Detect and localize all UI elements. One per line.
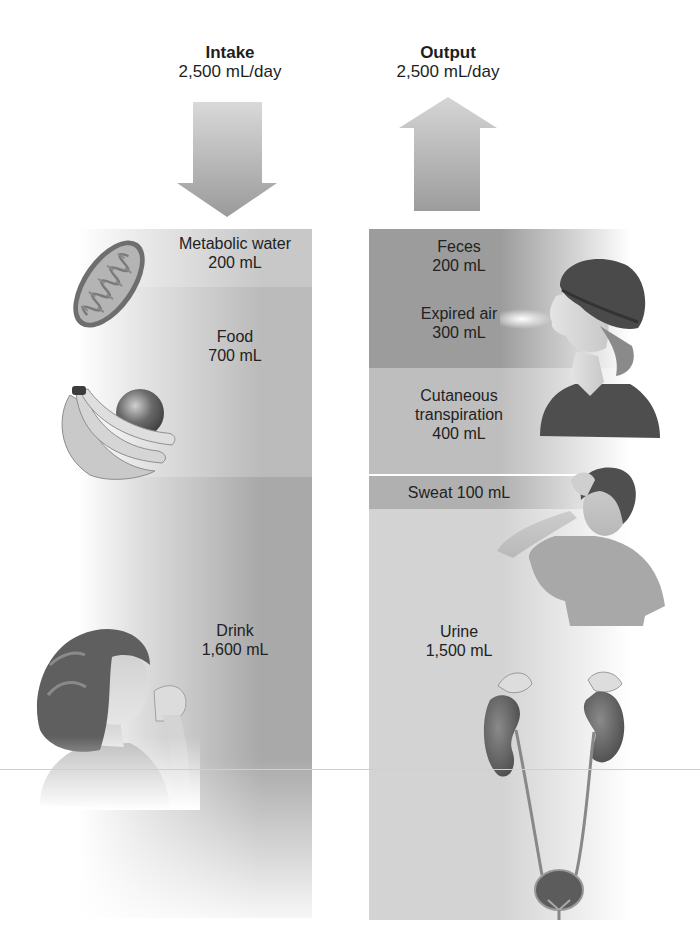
sweating-person-icon bbox=[495, 466, 675, 631]
horizontal-rule bbox=[0, 769, 700, 770]
label-metabolic-water: Metabolic water 200 mL bbox=[155, 234, 312, 272]
intake-title: Intake bbox=[140, 43, 320, 62]
output-header: Output 2,500 mL/day bbox=[358, 43, 538, 81]
output-total: 2,500 mL/day bbox=[358, 62, 538, 81]
intake-header: Intake 2,500 mL/day bbox=[140, 43, 320, 81]
intake-arrow-down-icon bbox=[170, 95, 285, 225]
exhaling-person-icon bbox=[500, 256, 670, 441]
label-food: Food 700 mL bbox=[155, 327, 312, 365]
intake-total: 2,500 mL/day bbox=[140, 62, 320, 81]
fruit-icon bbox=[50, 383, 180, 483]
kidneys-bladder-icon bbox=[476, 670, 636, 920]
mitochondrion-icon bbox=[62, 232, 157, 337]
output-arrow-up-icon bbox=[395, 92, 505, 217]
drinking-person-icon bbox=[20, 625, 200, 810]
output-title: Output bbox=[358, 43, 538, 62]
